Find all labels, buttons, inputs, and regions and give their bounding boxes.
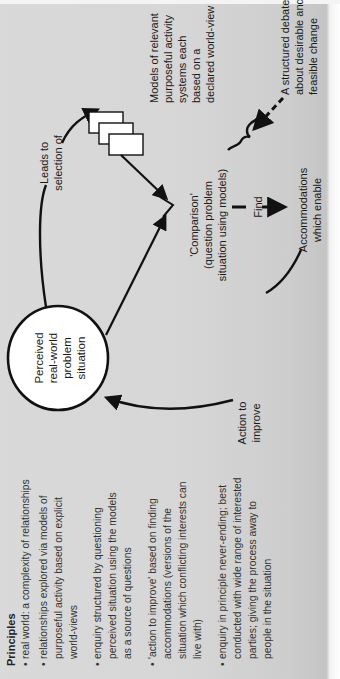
leads-to-line-2: selection of bbox=[52, 134, 64, 191]
principle-5-line-3: parties; giving the process away to bbox=[247, 501, 258, 659]
principles-heading: Principles bbox=[5, 613, 17, 666]
models-line-3: systems each bbox=[176, 36, 188, 103]
principle-2-line-3: world-views bbox=[68, 605, 79, 660]
diagram-canvas: Perceived real-world problem situation L… bbox=[0, 0, 340, 679]
leads-to-label: Leads to selection of bbox=[38, 134, 64, 191]
action-line-2: improve bbox=[250, 403, 262, 442]
principle-4-line-3: situation which conflicting interests ca… bbox=[177, 481, 188, 659]
accommodations-line-1: Accommodations bbox=[297, 167, 309, 252]
principle-5-line-2: conducted with wide range of interested bbox=[232, 477, 243, 659]
comparison-line-3: situation using models) bbox=[216, 169, 228, 282]
problem-line-1: Perceived bbox=[33, 332, 45, 383]
principle-5-line-4: people in the situation bbox=[262, 559, 273, 659]
accommodations-line-2: which enable bbox=[311, 178, 323, 243]
ssm-diagram: Perceived real-world problem situation L… bbox=[0, 0, 340, 679]
action-line-1: Action to bbox=[236, 402, 248, 445]
problem-line-3: problem bbox=[61, 337, 73, 379]
models-label: Models of relevant purposeful activity s… bbox=[148, 6, 216, 103]
problem-situation-node: Perceived real-world problem situation bbox=[8, 306, 108, 410]
action-label: Action to improve bbox=[236, 402, 262, 445]
principle-3-line-1: enquiry structured by questioning bbox=[92, 507, 103, 659]
find-label: Find bbox=[252, 196, 264, 217]
bullet-icon: • bbox=[20, 662, 31, 666]
debate-line-1: A structured debate bbox=[279, 0, 291, 95]
problem-line-2: real-world bbox=[47, 333, 59, 384]
models-line-5: declared world-view bbox=[204, 6, 216, 103]
models-to-comparison-arrow bbox=[121, 155, 166, 198]
model-box-3 bbox=[109, 134, 143, 155]
problem-line-4: situation bbox=[75, 337, 87, 380]
action-arc-upper bbox=[266, 250, 301, 293]
models-line-4: based on a bbox=[190, 48, 202, 103]
principle-3-line-2: perceived situation using the models bbox=[107, 492, 118, 659]
leads-to-line-1: Leads to bbox=[38, 142, 50, 184]
models-line-1: Models of relevant bbox=[148, 13, 160, 103]
comparison-label: 'Comparison' (question problem situation… bbox=[188, 169, 228, 282]
leads-to-arc-lower bbox=[40, 185, 46, 307]
debate-line-3: feasible change bbox=[307, 18, 319, 95]
principle-4-line-1: 'action to improve' based on finding bbox=[147, 498, 158, 659]
principle-1-line-1: real world: a complexity of relationship… bbox=[20, 479, 31, 659]
comparison-convergence bbox=[160, 197, 173, 217]
find-text: Find bbox=[252, 196, 264, 217]
brace-icon bbox=[228, 115, 260, 150]
bullet-icon: • bbox=[147, 662, 158, 666]
bullet-icon: • bbox=[217, 662, 228, 666]
models-stack bbox=[89, 112, 143, 155]
accommodations-label: Accommodations which enable bbox=[297, 167, 323, 252]
principle-2-line-1: relationships explored via models of bbox=[38, 495, 49, 659]
situation-to-comparison-arrow bbox=[106, 217, 165, 335]
principles-panel: Principles • real world: a complexity of… bbox=[5, 477, 273, 666]
debate-line-2: about desirable and bbox=[293, 0, 305, 95]
bullet-icon: • bbox=[38, 662, 49, 666]
bullet-icon: • bbox=[92, 662, 103, 666]
comparison-line-1: 'Comparison' bbox=[188, 193, 200, 257]
comparison-line-2: (question problem bbox=[202, 181, 214, 269]
principle-2-line-2: purposeful activity based on explicit bbox=[53, 497, 64, 659]
principle-4-line-2: accommodations (versions of the bbox=[162, 508, 173, 659]
action-arrow bbox=[107, 398, 233, 409]
principle-3-line-3: as a source of questions bbox=[122, 547, 133, 659]
debate-label: A structured debate about desirable and … bbox=[279, 0, 319, 95]
principle-4-line-4: live with) bbox=[192, 619, 203, 659]
principle-5-line-1: enquiry in principle never-ending; best bbox=[217, 485, 228, 659]
models-line-2: purposeful activity bbox=[162, 14, 174, 103]
debate-dashed-arrow bbox=[255, 98, 283, 128]
